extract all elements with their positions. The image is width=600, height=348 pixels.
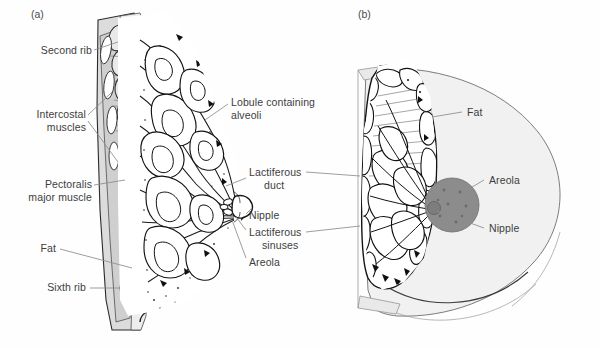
label-pectoralis-line1: Pectoralis xyxy=(2,178,92,191)
label-lactiferous-duct-line2: duct xyxy=(264,179,284,192)
nipple-b xyxy=(428,202,441,215)
label-intercostal-muscles-line1: Intercostal xyxy=(2,108,86,121)
panel-a-tag: (a) xyxy=(31,8,44,20)
label-pectoralis-line2: major muscle xyxy=(2,191,92,204)
label-areola-a: Areola xyxy=(249,256,280,269)
label-fat-a: Fat xyxy=(2,242,56,255)
figure-canvas: (a) (b) Second rib Intercostal muscles P… xyxy=(0,0,600,348)
label-lactiferous-sinuses-line1: Lactiferous xyxy=(249,226,301,239)
label-intercostal-muscles-line2: muscles xyxy=(2,121,86,134)
label-nipple-b: Nipple xyxy=(489,222,519,235)
label-lactiferous-sinuses-line2: sinuses xyxy=(262,239,298,252)
label-lactiferous-duct-line1: Lactiferous xyxy=(249,166,301,179)
label-lobule-line2: alveoli xyxy=(231,109,261,122)
label-nipple-a: Nipple xyxy=(249,209,279,222)
label-second-rib: Second rib xyxy=(2,44,92,57)
label-areola-b: Areola xyxy=(489,174,520,187)
label-fat-b: Fat xyxy=(467,106,482,119)
panel-b-tag: (b) xyxy=(358,8,371,20)
label-lobule-line1: Lobule containing xyxy=(231,96,315,109)
label-sixth-rib: Sixth rib xyxy=(2,281,86,294)
